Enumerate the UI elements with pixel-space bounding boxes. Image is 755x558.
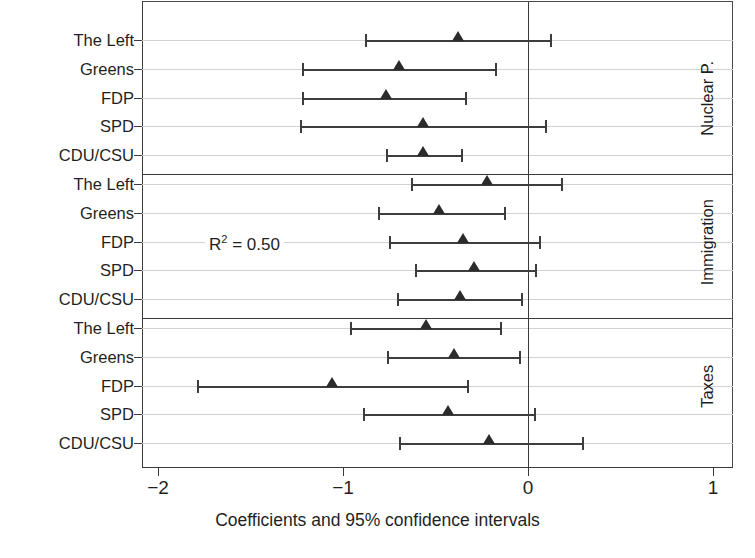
estimate-marker (326, 377, 338, 387)
x-axis-tick (343, 468, 344, 476)
x-axis-tick (528, 468, 529, 476)
y-axis-label: FDP (16, 378, 134, 395)
ci-upper-cap (535, 264, 537, 277)
y-axis-label: Greens (16, 349, 134, 366)
ci-upper-cap (467, 380, 469, 393)
panel-separator (142, 174, 733, 175)
ci-upper-cap (495, 63, 497, 76)
estimate-marker (442, 405, 454, 415)
y-axis-tick (134, 184, 142, 185)
estimate-marker (483, 434, 495, 444)
ci-lower-cap (386, 149, 388, 162)
y-axis-label: FDP (16, 234, 134, 251)
x-axis-tick (713, 468, 714, 476)
ci-upper-cap (545, 120, 547, 133)
ci-upper-cap (465, 92, 467, 105)
coefficient-plot-figure: The LeftGreensFDPSPDCDU/CSUThe LeftGreen… (0, 0, 755, 558)
y-axis-tick (134, 213, 142, 214)
x-axis-tick-label: −2 (147, 478, 169, 497)
r-squared-annotation: R2 = 0.50 (205, 230, 284, 254)
ci-lower-cap (415, 264, 417, 277)
y-axis-tick (134, 386, 142, 387)
estimate-marker (448, 348, 460, 358)
panel-label: Nuclear P. (699, 18, 716, 178)
ci-lower-cap (365, 34, 367, 47)
ci-upper-cap (521, 293, 523, 306)
x-axis-tick (158, 468, 159, 476)
zero-reference-line (528, 2, 529, 468)
y-axis-label: CDU/CSU (16, 147, 134, 164)
ci-lower-cap (387, 351, 389, 364)
x-axis-title: Coefficients and 95% confidence interval… (0, 511, 755, 529)
y-axis-label: CDU/CSU (16, 435, 134, 452)
ci-lower-cap (197, 380, 199, 393)
y-axis-tick (134, 242, 142, 243)
ci-upper-cap (500, 322, 502, 335)
estimate-marker (420, 319, 432, 329)
panel-label: Immigration (699, 162, 716, 322)
ci-lower-cap (300, 120, 302, 133)
y-axis-label: SPD (16, 406, 134, 423)
estimate-marker (457, 233, 469, 243)
y-axis-label: The Left (16, 176, 134, 193)
ci-upper-cap (534, 408, 536, 421)
ci-upper-cap (519, 351, 521, 364)
estimate-marker (468, 261, 480, 271)
ci-upper-cap (504, 207, 506, 220)
ci-upper-cap (582, 437, 584, 450)
ci-lower-cap (411, 178, 413, 191)
ci-lower-cap (378, 207, 380, 220)
x-axis-tick-label: 1 (708, 478, 719, 497)
y-axis-tick (134, 270, 142, 271)
estimate-marker (433, 204, 445, 214)
y-axis-label: Greens (16, 205, 134, 222)
y-axis-labels: The LeftGreensFDPSPDCDU/CSUThe LeftGreen… (8, 0, 134, 470)
y-axis-tick (134, 69, 142, 70)
panel-label: Taxes (699, 306, 716, 466)
estimate-marker (452, 31, 464, 41)
y-axis-label: SPD (16, 118, 134, 135)
ci-lower-cap (302, 92, 304, 105)
y-axis-tick (134, 126, 142, 127)
ci-lower-cap (389, 236, 391, 249)
y-axis-tick (134, 299, 142, 300)
ci-upper-cap (461, 149, 463, 162)
y-axis-label: SPD (16, 262, 134, 279)
y-axis-label: The Left (16, 32, 134, 49)
estimate-marker (417, 146, 429, 156)
y-axis-label: FDP (16, 90, 134, 107)
y-axis-label: The Left (16, 320, 134, 337)
estimate-marker (393, 60, 405, 70)
estimate-marker (417, 117, 429, 127)
y-axis-tick (134, 357, 142, 358)
ci-lower-cap (399, 437, 401, 450)
ci-upper-cap (539, 236, 541, 249)
y-axis-tick (134, 98, 142, 99)
estimate-marker (380, 89, 392, 99)
y-axis-label: Greens (16, 61, 134, 78)
estimate-marker (481, 175, 493, 185)
panel-separator (142, 318, 733, 319)
ci-upper-cap (550, 34, 552, 47)
ci-lower-cap (363, 408, 365, 421)
estimate-marker (454, 290, 466, 300)
ci-lower-cap (397, 293, 399, 306)
y-axis-tick (134, 155, 142, 156)
x-axis-tick-label: 0 (523, 478, 534, 497)
x-axis-tick-label: −1 (332, 478, 354, 497)
y-axis-tick (134, 328, 142, 329)
y-axis-tick (134, 40, 142, 41)
y-axis-label: CDU/CSU (16, 291, 134, 308)
y-axis-tick (134, 443, 142, 444)
ci-lower-cap (302, 63, 304, 76)
y-axis-tick (134, 414, 142, 415)
ci-upper-cap (561, 178, 563, 191)
ci-lower-cap (350, 322, 352, 335)
